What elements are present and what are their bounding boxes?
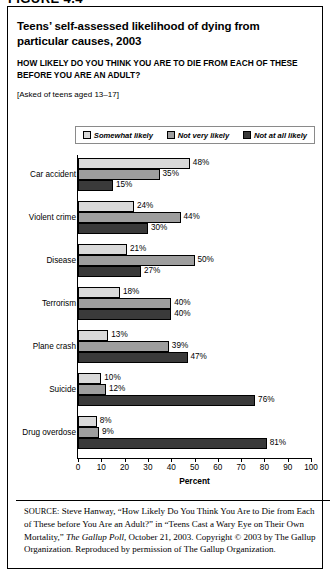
- legend-label: Not very likely: [178, 131, 230, 140]
- bar: [78, 309, 171, 320]
- bar: [78, 341, 169, 352]
- bar-value-label: 13%: [111, 329, 127, 341]
- bar-group: Drug overdose8%9%81%: [0, 416, 330, 449]
- bar-row: 40%: [78, 298, 311, 309]
- category-label: Drug overdose: [0, 428, 76, 437]
- bar: [78, 298, 171, 309]
- bar-value-label: 47%: [191, 351, 207, 363]
- chart-subtitle: HOW LIKELY DO YOU THINK YOU ARE TO DIE F…: [17, 58, 313, 82]
- x-tick-label: 80: [252, 463, 276, 472]
- x-tick-label: 30: [136, 463, 160, 472]
- bar-group: Disease21%50%27%: [0, 244, 330, 277]
- bar-row: 12%: [78, 384, 311, 395]
- x-tick-label: 10: [89, 463, 113, 472]
- legend-item-not-at-all-likely: Not at all likely: [243, 131, 307, 140]
- category-label: Disease: [0, 256, 76, 265]
- bar-value-label: 81%: [270, 437, 286, 449]
- bar-row: 15%: [78, 180, 311, 191]
- legend-item-somewhat-likely: Somewhat likely: [83, 131, 153, 140]
- category-label: Car accident: [0, 170, 76, 179]
- x-tick-label: 20: [113, 463, 137, 472]
- bar-group: Terrorism18%40%40%: [0, 287, 330, 320]
- bar-value-label: 9%: [102, 426, 114, 438]
- x-tick-label: 90: [276, 463, 300, 472]
- bar: [78, 352, 188, 363]
- bar: [78, 223, 148, 234]
- category-label: Violent crime: [0, 213, 76, 222]
- x-tick-label: 40: [159, 463, 183, 472]
- bar-value-label: 50%: [198, 254, 214, 266]
- x-tick-mark: [311, 458, 312, 462]
- bar-value-label: 76%: [258, 394, 274, 406]
- x-tick-label: 70: [229, 463, 253, 472]
- chart-legend: Somewhat likely Not very likely Not at a…: [75, 126, 315, 144]
- bar: [78, 266, 141, 277]
- bar-group: Car accident48%35%15%: [0, 158, 330, 191]
- x-tick-mark: [78, 458, 79, 462]
- bar-row: 44%: [78, 212, 311, 223]
- bar: [78, 330, 108, 341]
- bar: [78, 287, 120, 298]
- bar: [78, 395, 255, 406]
- category-label: Terrorism: [0, 299, 76, 308]
- asked-of-note: [Asked of teens aged 13–17]: [17, 90, 313, 100]
- bar-value-label: 40%: [174, 308, 190, 320]
- bar-value-label: 12%: [109, 383, 125, 395]
- bar-value-label: 44%: [184, 211, 200, 223]
- x-tick-mark: [101, 458, 102, 462]
- bar-row: 76%: [78, 395, 311, 406]
- bar-row: 27%: [78, 266, 311, 277]
- x-tick-mark: [241, 458, 242, 462]
- legend-item-not-very-likely: Not very likely: [167, 131, 230, 140]
- bar-row: 21%: [78, 244, 311, 255]
- bar-value-label: 30%: [151, 222, 167, 234]
- bar-row: 50%: [78, 255, 311, 266]
- category-label: Plane crash: [0, 342, 76, 351]
- bar-row: 30%: [78, 223, 311, 234]
- source-prefix: SOURCE:: [24, 507, 59, 516]
- x-tick-mark: [288, 458, 289, 462]
- bar-value-label: 48%: [193, 157, 209, 169]
- source-divider: [16, 500, 330, 501]
- page-title: Teens’ self-assessed likelihood of dying…: [17, 19, 313, 50]
- x-tick-mark: [125, 458, 126, 462]
- bar-value-label: 15%: [116, 179, 132, 191]
- bar: [78, 373, 101, 384]
- bar-value-label: 24%: [137, 200, 153, 212]
- bar: [78, 180, 113, 191]
- bar-row: 13%: [78, 330, 311, 341]
- x-tick-mark: [218, 458, 219, 462]
- bar-row: 18%: [78, 287, 311, 298]
- bar-row: 81%: [78, 438, 311, 449]
- bar-group: Violent crime24%44%30%: [0, 201, 330, 234]
- category-label: Suicide: [0, 385, 76, 394]
- bar: [78, 416, 97, 427]
- x-tick-label: 0: [66, 463, 90, 472]
- x-tick-mark: [148, 458, 149, 462]
- x-tick-mark: [195, 458, 196, 462]
- x-tick-label: 60: [206, 463, 230, 472]
- x-axis-title: Percent: [77, 476, 312, 486]
- legend-label: Not at all likely: [254, 131, 307, 140]
- bar: [78, 201, 134, 212]
- bar: [78, 255, 195, 266]
- bar-row: 40%: [78, 309, 311, 320]
- source-note: SOURCE: Steve Hanway, “How Likely Do You…: [24, 505, 324, 556]
- bar: [78, 384, 106, 395]
- x-tick-label: 50: [183, 463, 207, 472]
- x-tick-label: 100: [299, 463, 323, 472]
- x-tick-mark: [264, 458, 265, 462]
- bar-group: Plane crash13%39%47%: [0, 330, 330, 363]
- bar: [78, 427, 99, 438]
- legend-swatch-icon: [243, 131, 251, 139]
- legend-swatch-icon: [83, 131, 91, 139]
- bar-value-label: 18%: [123, 286, 139, 298]
- bar-value-label: 21%: [130, 243, 146, 255]
- bar-row: 48%: [78, 158, 311, 169]
- bar-value-label: 39%: [172, 340, 188, 352]
- bar: [78, 438, 267, 449]
- bar-value-label: 27%: [144, 265, 160, 277]
- bar-row: 35%: [78, 169, 311, 180]
- bar-row: 47%: [78, 352, 311, 363]
- bar-group: Suicide10%12%76%: [0, 373, 330, 406]
